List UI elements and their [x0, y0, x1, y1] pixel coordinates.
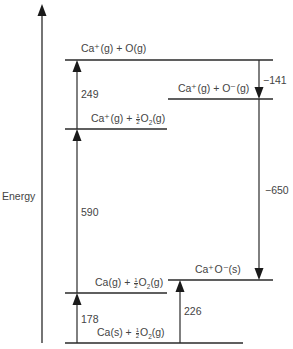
label-species: O — [140, 326, 148, 338]
step-arrows — [73, 60, 264, 343]
step-value-minus-650: −650 — [265, 184, 289, 196]
level-label-ca-s-half-o2: Ca(s) + 12O2(g) — [97, 326, 165, 343]
energy-levels — [65, 60, 273, 343]
level-label-ca-plus-o: Ca⁺(g) + O(g) — [81, 42, 146, 54]
label-prefix: Ca(g) + — [95, 276, 133, 288]
fraction: 12 — [136, 114, 139, 125]
step-value-590: 590 — [81, 206, 99, 218]
label-species: O — [141, 112, 149, 124]
fraction: 12 — [136, 328, 139, 339]
label-prefix: Ca(s) + — [97, 326, 135, 338]
level-label-caO-solid: Ca⁺O⁻(s) — [195, 263, 241, 275]
label-prefix: Ca⁺(g) + — [91, 112, 135, 124]
step-value-226: 226 — [184, 305, 202, 317]
energy-axis — [38, 4, 47, 343]
label-suffix: (g) — [150, 276, 163, 288]
level-label-ca-g-half-o2: Ca(g) + 12O2(g) — [95, 276, 163, 293]
fraction: 12 — [134, 278, 137, 289]
frac-num: 1 — [136, 114, 139, 119]
label-species: O — [139, 276, 147, 288]
frac-num: 1 — [134, 278, 137, 283]
level-label-ca-plus-half-o2: Ca⁺(g) + 12O2(g) — [91, 112, 165, 129]
frac-den: 2 — [134, 283, 137, 289]
energy-axis-label: Energy — [2, 190, 35, 202]
frac-den: 2 — [136, 119, 139, 125]
frac-num: 1 — [136, 328, 139, 333]
level-label-ca-plus-o-minus: Ca⁺(g) + O⁻(g) — [178, 82, 249, 94]
step-value-249: 249 — [81, 88, 99, 100]
step-value-minus-141: −141 — [263, 74, 287, 86]
step-value-178: 178 — [81, 313, 99, 325]
frac-den: 2 — [136, 333, 139, 339]
label-suffix: (g) — [152, 326, 165, 338]
label-suffix: (g) — [152, 112, 165, 124]
energy-diagram-canvas — [0, 0, 293, 349]
